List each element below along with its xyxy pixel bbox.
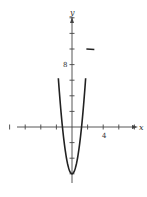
y-tick-label-8: 8 bbox=[63, 61, 67, 69]
point-marker-icon bbox=[86, 49, 94, 50]
x-axis-arrow-icon bbox=[132, 125, 138, 129]
axes bbox=[17, 17, 135, 183]
x-tick-label-4: 4 bbox=[102, 132, 107, 140]
parabola-chart: y x 4 8 bbox=[0, 0, 147, 197]
y-axis-label: y bbox=[69, 8, 75, 17]
x-axis-label: x bbox=[139, 123, 144, 132]
